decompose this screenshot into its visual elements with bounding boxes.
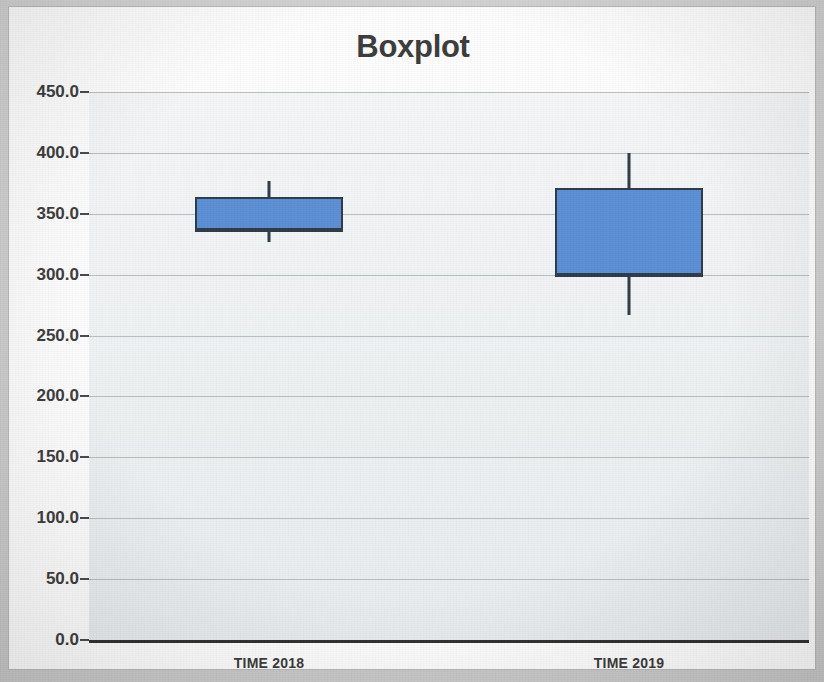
x-axis-tick-label: TIME 2019 xyxy=(594,655,664,670)
whisker-lower xyxy=(628,275,631,315)
gridline xyxy=(89,92,809,93)
y-axis-tick-label: 50.0 xyxy=(8,569,79,589)
y-axis-tick-label: 200.0 xyxy=(8,386,79,406)
y-axis-tick-mark xyxy=(80,274,89,276)
x-axis-baseline xyxy=(89,640,809,643)
y-axis-tick-mark xyxy=(80,152,89,154)
chart-title: Boxplot xyxy=(9,29,816,65)
whisker-upper xyxy=(268,181,271,197)
box-rect[interactable] xyxy=(555,188,703,274)
y-axis-tick-label: 400.0 xyxy=(8,143,79,163)
box-rect[interactable] xyxy=(195,197,343,230)
y-axis-tick-label: 100.0 xyxy=(8,508,79,528)
y-axis-tick-mark xyxy=(80,456,89,458)
plot-area xyxy=(89,92,809,640)
y-axis-tick-mark xyxy=(80,213,89,215)
screenshot-root: Boxplot 450.0400.0350.0300.0250.0200.015… xyxy=(0,0,824,682)
whisker-upper xyxy=(628,153,631,188)
y-axis-tick-mark xyxy=(80,335,89,337)
x-axis-tick-label: TIME 2018 xyxy=(234,655,304,670)
y-axis-tick-label: 350.0 xyxy=(8,204,79,224)
gridline xyxy=(89,457,809,458)
y-axis-tick-label: 0.0 xyxy=(8,630,79,650)
median-line xyxy=(555,275,703,278)
y-axis-tick-label: 250.0 xyxy=(8,326,79,346)
gridline xyxy=(89,579,809,580)
gridline xyxy=(89,518,809,519)
y-axis-tick-label: 300.0 xyxy=(8,265,79,285)
y-axis-tick-label: 450.0 xyxy=(8,82,79,102)
y-axis-tick-mark xyxy=(80,91,89,93)
gridline xyxy=(89,153,809,154)
y-axis-tick-mark xyxy=(80,517,89,519)
gridline xyxy=(89,396,809,397)
y-axis-tick-label: 150.0 xyxy=(8,447,79,467)
y-axis-tick-mark xyxy=(80,395,89,397)
chart-card: Boxplot 450.0400.0350.0300.0250.0200.015… xyxy=(8,6,816,670)
gridline xyxy=(89,336,809,337)
median-line xyxy=(195,230,343,233)
y-axis-tick-mark xyxy=(80,578,89,580)
y-axis-tick-mark xyxy=(80,639,89,641)
